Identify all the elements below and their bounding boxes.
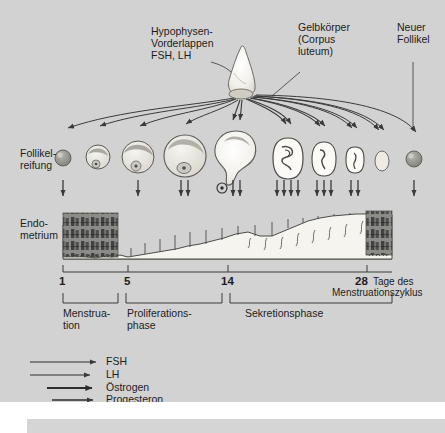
leader-pituitary bbox=[211, 62, 233, 74]
label-follicle-maturation: Follikel- reifung bbox=[20, 148, 56, 172]
figure-panel: Hypophysen- Vorderlappen FSH, LH Gelbkör… bbox=[0, 0, 445, 402]
diagram-canvas bbox=[0, 0, 445, 402]
bracket-proliferation bbox=[126, 293, 222, 303]
premenstrual-tissue-block bbox=[366, 211, 392, 255]
hormone-intensity-marks bbox=[63, 180, 414, 196]
bracket-menstruation bbox=[63, 293, 118, 303]
follicle-corpus-albicans bbox=[375, 151, 389, 171]
label-corpus-luteum: Gelbkörper (Corpus luteum) bbox=[298, 22, 350, 57]
label-endometrium: Endo- metrium bbox=[20, 218, 58, 242]
leader-corpus-luteum bbox=[272, 72, 300, 96]
follicle-primary-follicle bbox=[86, 145, 110, 169]
follicle-ovulation bbox=[215, 131, 256, 185]
day-axis bbox=[63, 265, 392, 272]
hormone-arrow-fan bbox=[68, 95, 416, 132]
follicle-corpus-luteum-late bbox=[346, 147, 364, 173]
legend-label-fsh: FSH bbox=[106, 356, 127, 368]
page-gutter bbox=[0, 402, 445, 414]
mark-group-luteal-peak bbox=[277, 180, 298, 196]
axis-unit-line1: Tage des bbox=[373, 276, 414, 287]
page-bottom-band-inner bbox=[27, 419, 445, 433]
follicle-series bbox=[55, 131, 422, 185]
axis-unit-line2: Menstruationszyklus bbox=[332, 287, 423, 298]
menstruation-tissue-block bbox=[63, 213, 118, 257]
follicle-primordial-follicle bbox=[55, 150, 71, 166]
day-label-28: 28 bbox=[355, 275, 368, 288]
follicle-corpus-luteum-mid bbox=[312, 142, 336, 176]
day-label-5: 5 bbox=[124, 275, 130, 288]
mark-group-luteal-late bbox=[351, 180, 358, 196]
follicle-secondary-follicle bbox=[122, 141, 154, 173]
mark-group-luteal-mid bbox=[317, 180, 331, 196]
label-pituitary: Hypophysen- Vorderlappen FSH, LH bbox=[151, 26, 213, 61]
day-label-14: 14 bbox=[221, 275, 234, 288]
mark-group-day10 bbox=[181, 180, 188, 196]
legend-arrows bbox=[30, 362, 96, 400]
phase-label-secretion: Sekretionsphase bbox=[245, 308, 323, 320]
pituitary-gland-icon bbox=[228, 46, 255, 99]
follicle-tertiary-follicle bbox=[164, 135, 206, 177]
legend-label-lh: LH bbox=[106, 369, 119, 381]
phase-label-menstruation: Menstrua- tion bbox=[63, 308, 110, 332]
legend-label-oestrogen: Östrogen bbox=[106, 382, 149, 394]
follicle-new-follicle bbox=[406, 151, 422, 167]
follicle-corpus-luteum-early bbox=[273, 138, 303, 179]
label-new-follicle: Neuer Follikel bbox=[397, 22, 430, 46]
endometrium-chart bbox=[63, 211, 392, 259]
phase-label-proliferation: Proliferations- phase bbox=[127, 308, 192, 332]
day-label-1: 1 bbox=[59, 275, 65, 288]
page-bottom-band bbox=[0, 414, 445, 433]
